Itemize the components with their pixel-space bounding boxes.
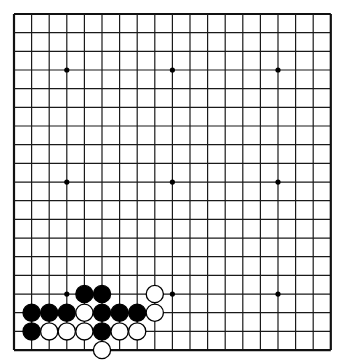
star-point: [275, 67, 280, 72]
star-point: [170, 67, 175, 72]
black-stone: [76, 285, 93, 302]
go-board: [0, 0, 348, 363]
star-point: [170, 179, 175, 184]
black-stone: [93, 304, 110, 321]
white-stone: [111, 323, 128, 340]
stones-layer: [23, 285, 163, 358]
black-stone: [23, 323, 40, 340]
white-stone: [146, 304, 163, 321]
white-stone: [58, 323, 75, 340]
white-stone: [76, 323, 93, 340]
star-point: [64, 179, 69, 184]
black-stone: [93, 285, 110, 302]
black-stone: [41, 304, 58, 321]
star-point: [275, 179, 280, 184]
white-stone: [41, 323, 58, 340]
black-stone: [58, 304, 75, 321]
white-stone: [146, 285, 163, 302]
white-stone: [129, 323, 146, 340]
black-stone: [93, 323, 110, 340]
black-stone: [111, 304, 128, 321]
star-point: [170, 291, 175, 296]
white-stone: [76, 304, 93, 321]
black-stone: [23, 304, 40, 321]
black-stone: [129, 304, 146, 321]
star-point: [275, 291, 280, 296]
white-stone: [93, 341, 110, 358]
star-point: [64, 291, 69, 296]
star-point: [64, 67, 69, 72]
